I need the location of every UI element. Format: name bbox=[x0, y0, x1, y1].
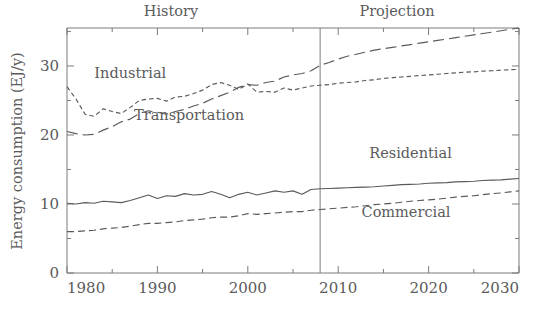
y-tick-label: 10 bbox=[40, 195, 59, 213]
x-tick-label: 1990 bbox=[138, 279, 176, 297]
chart-figure: Energy consumption (EJ/y) 19801990200020… bbox=[0, 0, 545, 313]
x-tick-label: 2000 bbox=[229, 279, 267, 297]
annotation-projection: Projection bbox=[359, 3, 434, 19]
x-tick-label: 2030 bbox=[481, 279, 519, 297]
y-axis-title-text: Energy consumption (EJ/y) bbox=[9, 52, 25, 249]
y-tick-label: 20 bbox=[40, 126, 59, 144]
y-tick-label: 0 bbox=[49, 264, 59, 282]
annotation-history: History bbox=[144, 3, 199, 19]
x-tick-label: 2020 bbox=[410, 279, 448, 297]
series-line-commercial bbox=[67, 191, 519, 232]
chart-annotations: HistoryProjectionIndustrialTransportatio… bbox=[94, 3, 452, 221]
x-tick-label: 2010 bbox=[319, 279, 357, 297]
annotation-residential: Residential bbox=[369, 145, 452, 161]
annotation-commercial: Commercial bbox=[362, 204, 451, 220]
energy-consumption-line-chart: Energy consumption (EJ/y) 19801990200020… bbox=[0, 0, 545, 313]
y-tick-label: 30 bbox=[40, 57, 59, 75]
annotation-transportation: Transportation bbox=[134, 107, 244, 123]
data-series-group bbox=[67, 28, 519, 232]
series-line-residential bbox=[67, 178, 519, 204]
annotation-industrial: Industrial bbox=[94, 65, 166, 81]
y-axis-title: Energy consumption (EJ/y) bbox=[9, 52, 25, 249]
x-tick-label: 1980 bbox=[67, 279, 105, 297]
